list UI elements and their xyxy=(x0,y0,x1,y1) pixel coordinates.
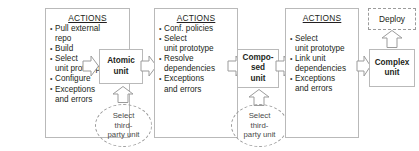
actions-list: Conf. policies Select unit prototype Res… xyxy=(155,24,237,95)
source-ellipse-third-party-unit: Select third- party unit xyxy=(95,104,152,147)
unit-box-complex: Complex unit xyxy=(369,49,415,87)
block-arrow-up-icon xyxy=(381,30,403,48)
actions-heading: ACTIONS xyxy=(46,13,129,23)
action-item: Conf. policies xyxy=(159,24,237,34)
action-item: Select unit prototype xyxy=(159,34,237,54)
actions-heading: ACTIONS xyxy=(155,13,237,23)
action-item: Pull external repo xyxy=(50,24,129,44)
block-arrow-right-icon xyxy=(83,55,99,77)
actions-panel-stage-2: ACTIONS Conf. policies Select unit proto… xyxy=(154,8,238,138)
unit-box-atomic: Atomic unit xyxy=(99,49,143,84)
actions-heading: ACTIONS xyxy=(286,13,358,23)
actions-list: Select unit prototype Link unit dependen… xyxy=(286,34,358,95)
action-item: Resolve dependencies xyxy=(159,54,237,74)
unit-box-composed: Compo- sed unit xyxy=(237,49,279,88)
action-item: Exceptions and errors xyxy=(290,74,358,94)
action-item: Exceptions and errors xyxy=(159,74,237,94)
action-item: Link unit dependencies xyxy=(290,54,358,74)
block-arrow-up-icon xyxy=(112,86,134,103)
action-item: Select unit prototype xyxy=(290,34,358,54)
actions-panel-stage-3: ACTIONS Select unit prototype Link unit … xyxy=(285,8,359,138)
deploy-box: Deploy xyxy=(368,8,416,30)
diagram-canvas: ACTIONS Pull external repo Build Select … xyxy=(0,0,419,151)
source-ellipse-third-party-unit: Select third- party unit xyxy=(231,104,288,147)
